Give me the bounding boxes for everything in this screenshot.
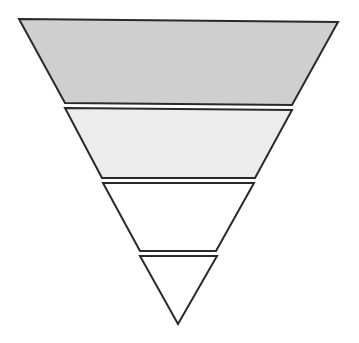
pyramid-tier-1 — [19, 19, 338, 105]
pyramid-svg — [0, 0, 359, 343]
pyramid-tier-2 — [65, 108, 292, 178]
pyramid-tier-4-apex — [140, 256, 217, 324]
pyramid-tier-3 — [103, 183, 254, 251]
inverted-pyramid-diagram — [0, 0, 359, 343]
